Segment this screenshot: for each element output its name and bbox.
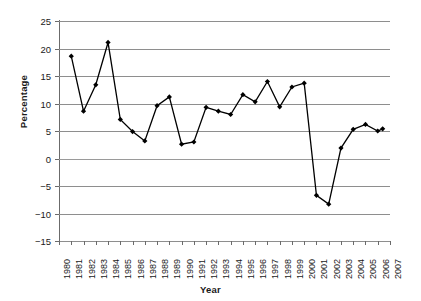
x-axis-tick-label: 1981 — [75, 259, 84, 279]
x-axis-tick-label: 1990 — [186, 259, 195, 279]
x-axis-tick-mark — [108, 241, 109, 245]
x-axis-tick-mark — [267, 241, 268, 245]
x-axis-tick-mark — [59, 241, 60, 245]
y-axis-tick-label: 10 — [17, 100, 51, 109]
data-point-marker — [380, 126, 385, 131]
x-axis-tick-label: 1998 — [284, 259, 293, 279]
data-point-marker — [375, 128, 380, 133]
data-point-marker — [302, 81, 307, 86]
x-axis-tick-label: 1980 — [63, 259, 72, 279]
x-axis-tick-label: 1994 — [235, 259, 244, 279]
x-axis-tick-mark — [133, 241, 134, 245]
x-axis-tick-mark — [390, 241, 391, 245]
x-axis-tick-label: 1997 — [271, 259, 280, 279]
x-axis-tick-label: 1983 — [100, 259, 109, 279]
x-axis-tick-mark — [206, 241, 207, 245]
x-axis-tick-mark — [194, 241, 195, 245]
x-axis-tick-mark — [316, 241, 317, 245]
x-axis-tick-mark — [243, 241, 244, 245]
x-axis-tick-mark — [304, 241, 305, 245]
line-chart: Percentage 2520151050−5−10−15 1980198119… — [0, 0, 421, 301]
x-axis-tick-label: 1989 — [173, 259, 182, 279]
x-axis-tick-label: 2005 — [369, 259, 378, 279]
x-axis-tick-label: 1991 — [198, 259, 207, 279]
x-axis-tick-mark — [365, 241, 366, 245]
x-axis-tick-mark — [231, 241, 232, 245]
x-axis-tick-mark — [341, 241, 342, 245]
x-axis-tick-label: 2007 — [394, 259, 403, 279]
y-axis-tick-label: −10 — [17, 210, 51, 219]
y-axis-tick-label: 15 — [17, 72, 51, 81]
x-axis-tick-mark — [182, 241, 183, 245]
x-axis-tick-label: 1985 — [124, 259, 133, 279]
series-polyline — [71, 42, 382, 204]
data-point-marker — [105, 40, 110, 45]
data-point-marker — [93, 82, 98, 87]
x-axis-tick-label: 1984 — [112, 259, 121, 279]
x-axis-tick-mark — [255, 241, 256, 245]
data-point-marker — [216, 109, 221, 114]
x-axis-tick-label: 1993 — [222, 259, 231, 279]
y-axis-tick-label: 0 — [17, 155, 51, 164]
x-axis-tick-label: 1986 — [137, 259, 146, 279]
x-axis-tick-label: 2003 — [345, 259, 354, 279]
x-axis-tick-label: 1999 — [296, 259, 305, 279]
data-point-marker — [69, 54, 74, 59]
x-axis-tick-mark — [280, 241, 281, 245]
x-axis-tick-label: 1996 — [259, 259, 268, 279]
x-axis-tick-mark — [329, 241, 330, 245]
data-point-marker — [179, 142, 184, 147]
x-axis-tick-mark — [96, 241, 97, 245]
y-axis-tick-label: −5 — [17, 182, 51, 191]
x-axis-tick-mark — [157, 241, 158, 245]
x-axis-tick-mark — [71, 241, 72, 245]
x-axis-tick-label: 2002 — [333, 259, 342, 279]
data-point-marker — [204, 105, 209, 110]
x-axis-tick-mark — [120, 241, 121, 245]
x-axis-tick-label: 1995 — [247, 259, 256, 279]
x-axis-tick-label: 1982 — [88, 259, 97, 279]
x-axis-tick-label: 1992 — [210, 259, 219, 279]
x-axis-tick-label: 1988 — [161, 259, 170, 279]
y-axis-tick-label: 5 — [17, 127, 51, 136]
x-axis-tick-mark — [378, 241, 379, 245]
x-axis-tick-label: 2001 — [320, 259, 329, 279]
x-axis-tick-mark — [84, 241, 85, 245]
data-point-marker — [363, 122, 368, 127]
y-axis-tick-label: 25 — [17, 17, 51, 26]
data-series-line — [59, 21, 390, 241]
y-axis-tick-label: 20 — [17, 45, 51, 54]
data-point-marker — [191, 139, 196, 144]
x-axis-tick-label: 2006 — [382, 259, 391, 279]
x-axis-tick-label: 2004 — [357, 259, 366, 279]
x-axis-tick-mark — [145, 241, 146, 245]
data-point-marker — [81, 109, 86, 114]
x-axis-tick-mark — [218, 241, 219, 245]
x-axis-tick-mark — [169, 241, 170, 245]
x-axis-tick-mark — [292, 241, 293, 245]
x-axis-title: Year — [0, 284, 421, 295]
x-axis-tick-label: 1987 — [149, 259, 158, 279]
y-axis-tick-label: −15 — [17, 237, 51, 246]
x-axis-tick-label: 2000 — [308, 259, 317, 279]
x-axis-tick-mark — [353, 241, 354, 245]
